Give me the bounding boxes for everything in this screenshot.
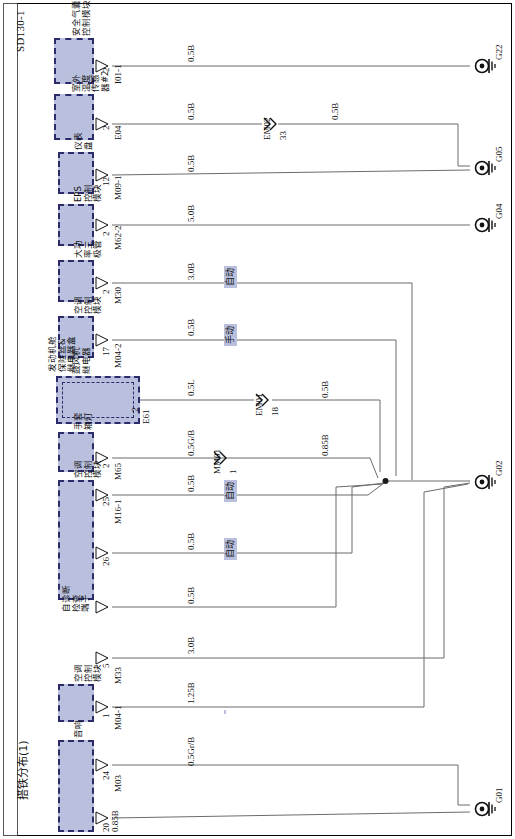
wire-gauge-w11: 0.5B	[186, 587, 196, 604]
wire-w13	[112, 484, 468, 707]
connector-id-hvac-m16-1: M16-1	[113, 500, 123, 525]
component-label-hvac-m04-1: 空调 控制 模块	[74, 664, 103, 682]
wire-gauge-w14: 0.5Gr/B	[186, 737, 196, 766]
wire-gauge-w8: 0.5G/B	[186, 430, 196, 456]
wire-w8	[112, 458, 378, 478]
connector-id-oat-sensor: E04	[113, 126, 123, 141]
component-box-hvac-m16-1[interactable]	[58, 480, 94, 600]
wire-gauge-w12: 3.0B	[186, 637, 196, 654]
ground-symbol-G05	[476, 161, 496, 175]
ground-label-G02: G02	[494, 461, 504, 477]
wire-gauge-w1: 0.5B	[186, 45, 196, 62]
ground-label-G04: G04	[494, 204, 504, 220]
connector-id-hvac-m04-2: M04-2	[113, 344, 123, 369]
pin-number-blower-relay: 2	[130, 408, 140, 413]
wire-gauge-w8b: 0.85B	[320, 434, 330, 456]
mode-tag-w10: 自动	[224, 538, 237, 560]
connector-id-hvac-m04-1: M04-1	[113, 706, 123, 731]
mode-tag-w5: 自动	[224, 266, 237, 288]
ground-symbol-G02	[476, 475, 496, 489]
wire-gauge-w2: 0.5B	[186, 103, 196, 120]
wire-w12	[112, 483, 470, 658]
pin-number-eps: 2	[101, 232, 111, 237]
wire-w11	[112, 484, 383, 607]
component-box-hvac-m04-1[interactable]	[58, 684, 94, 722]
wire-w10	[112, 483, 384, 553]
connector-id-cluster: M09-1	[113, 176, 123, 201]
ground-symbol-G01	[476, 802, 496, 816]
mode-tag-w13	[224, 710, 226, 714]
wire-gauge-w9: 0.5B	[186, 475, 196, 492]
ground-label-G22: G22	[494, 45, 504, 61]
wire-gauge-w5: 3.0B	[186, 263, 196, 280]
component-label-eps: EPS 控制 模块	[74, 184, 103, 202]
ground-junction-node	[383, 478, 389, 484]
ground-symbol-G04	[476, 218, 496, 232]
ground-symbol-G22	[476, 59, 496, 73]
wire-gauge-w3: 0.5B	[186, 155, 196, 172]
component-box-audio[interactable]	[58, 740, 94, 832]
wire-w5	[112, 283, 412, 480]
component-label-dlc: 自诊断 检查 端子	[62, 585, 91, 612]
wire-gauge-w13: 1.25B	[186, 682, 196, 704]
wire-w9	[112, 483, 384, 495]
connector-id-power-transistor: M30	[113, 287, 123, 304]
pin-number-hvac-m16-1-25: 25	[101, 497, 111, 506]
connector-id-blower-relay: E61	[141, 410, 151, 425]
component-label-airbag: 安全气囊 控制模块	[72, 0, 91, 36]
connector-id-airbag: I01-1	[113, 65, 123, 85]
component-label-glovebox-lamp: 手套 箱灯	[74, 412, 93, 430]
mode-tag-w9: 自动	[224, 480, 237, 502]
wire-gauge-w15: 0.85B	[110, 810, 120, 832]
mode-tag-w6: 手动	[224, 324, 237, 346]
component-label-blower-relay: 鼓风机 继电器	[72, 347, 91, 374]
component-label-power-transistor: 大功 率三 极管	[74, 240, 103, 258]
pin-number-oat-sensor: 2	[101, 126, 111, 131]
inline-connector-label-MM01: MM01	[212, 449, 222, 474]
pin-number-hvac-m16-1-26: 26	[101, 557, 111, 566]
component-label-cluster: 仪表 盘	[74, 132, 93, 150]
connector-id-dlc: M33	[113, 667, 123, 684]
inline-connector-pin-MM01: 1	[228, 470, 238, 475]
component-label-hvac-m16-1: 空调 控制 模块	[74, 460, 103, 478]
connector-id-eps: M62-2	[113, 226, 123, 251]
wire-gauge-w6: 0.5B	[186, 319, 196, 336]
inline-connector-pin-EM02: 33	[278, 131, 288, 140]
component-label-hvac-m04-2: 空调 控制 模块	[74, 296, 103, 314]
inline-connector-pin-EM01: 18	[270, 407, 280, 416]
pin-number-hvac-m04-2: 17	[101, 347, 111, 356]
component-label-audio: 音响	[74, 720, 84, 738]
connector-id-audio: M03	[113, 775, 123, 792]
wire-gauge-w10: 0.5B	[186, 533, 196, 550]
inline-connector-label-EM02: EM02	[262, 118, 272, 141]
ground-label-G01: G01	[494, 788, 504, 804]
wire-w14	[112, 765, 470, 805]
pin-number-dlc: 5	[101, 664, 111, 669]
wire-gauge-w7b: 0.5B	[320, 381, 330, 398]
wire-w3	[112, 170, 470, 175]
wire-w2b	[278, 124, 470, 166]
pin-number-hvac-m04-1: 1	[101, 714, 111, 719]
connector-id-glovebox-lamp: M65	[113, 463, 123, 480]
pin-number-glovebox-lamp: 2	[101, 464, 111, 469]
pin-number-audio-24: 24	[101, 771, 111, 780]
wire-gauge-w4: 5.0B	[186, 205, 196, 222]
component-label-oat-sensor: 室外 温度 传感 器#2	[72, 70, 110, 92]
ground-label-G05: G05	[494, 147, 504, 163]
wiring-diagram-page: SD130-1 搭铁分布(1)	[0, 0, 515, 839]
inline-connector-label-EM01: EM01	[254, 394, 264, 417]
wire-gauge-w2b: 0.5B	[330, 103, 340, 120]
wire-w15	[112, 812, 470, 818]
pin-number-power-transistor: 2	[101, 290, 111, 295]
pin-number-cluster: 12	[101, 177, 111, 186]
wire-gauge-w7: 0.5L	[186, 379, 196, 396]
